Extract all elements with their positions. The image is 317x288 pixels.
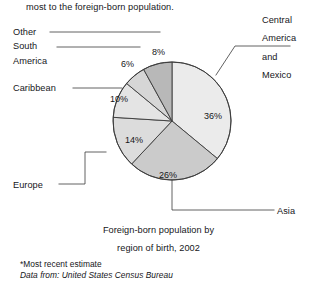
callout-label-asia: Asia — [277, 204, 295, 219]
callout-label-central-line3: and — [262, 48, 296, 66]
slice-value-central-america-mexico: 36% — [204, 111, 222, 121]
callout-label-central-america-mexico: Central America and Mexico — [262, 11, 296, 85]
slice-value-europe: 14% — [125, 135, 143, 145]
callout-label-south-line2: America — [13, 54, 47, 69]
callout-label-other: Other — [13, 25, 36, 40]
chart-caption-line1: Foreign-born population by — [0, 225, 317, 235]
leader-line-europe — [59, 152, 106, 184]
callout-label-central-line1: Central — [262, 11, 296, 29]
slice-value-other: 8% — [152, 47, 165, 57]
callout-label-europe: Europe — [13, 178, 43, 193]
footnote-estimate: *Most recent estimate — [20, 259, 102, 269]
footnote-source: Data from: United States Census Bureau — [20, 270, 173, 280]
pie-slices-group — [113, 62, 231, 180]
slice-value-south-america: 6% — [121, 59, 134, 69]
callout-label-south-america: South America — [13, 39, 47, 68]
chart-caption-line2: region of birth, 2002 — [0, 243, 317, 253]
callout-label-central-line2: America — [262, 29, 296, 47]
callout-label-south-line1: South — [13, 39, 47, 54]
callout-label-central-line4: Mexico — [262, 66, 296, 84]
leader-line-asia — [172, 180, 274, 210]
slice-value-caribbean: 10% — [110, 94, 128, 104]
pie-chart-figure: most to the foreign-born population. Oth… — [0, 0, 317, 288]
callout-label-caribbean: Caribbean — [13, 81, 56, 96]
slice-value-asia: 26% — [159, 170, 177, 180]
